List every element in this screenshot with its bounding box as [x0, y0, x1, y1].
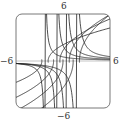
solution-curve: [79, 6, 122, 62]
x-max-label: 6: [113, 57, 119, 66]
solution-curves-plot: [0, 0, 122, 122]
y-min-label: −6: [57, 112, 70, 121]
solution-curve: [12, 63, 55, 122]
solution-curve: [69, 6, 122, 62]
solution-curve: [0, 59, 54, 115]
x-min-label: −6: [0, 57, 13, 66]
y-max-label: 6: [61, 2, 67, 11]
solution-curve: [12, 63, 44, 122]
solution-curve: [0, 59, 42, 115]
